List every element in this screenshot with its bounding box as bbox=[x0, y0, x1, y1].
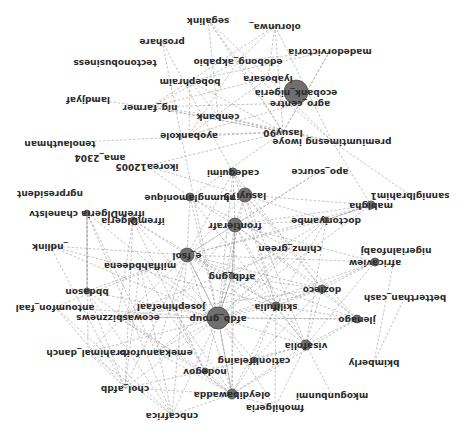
node-label: oleydibawadda bbox=[194, 390, 271, 400]
node-label: edobong_akpabio bbox=[194, 57, 283, 67]
node-label: bobephraim bbox=[160, 77, 221, 87]
edge bbox=[187, 197, 190, 255]
node-label: ama_2304 bbox=[74, 153, 125, 163]
node-label: segalink bbox=[186, 16, 230, 26]
edge bbox=[254, 306, 276, 360]
node-label: bkimberly bbox=[348, 358, 399, 368]
node-label: ecobank_nigeria bbox=[255, 88, 338, 98]
node-label: ngrpresident bbox=[16, 189, 83, 199]
node-label: cationlifelaing bbox=[218, 356, 291, 366]
node-label: proshare bbox=[139, 37, 184, 47]
edge bbox=[306, 289, 322, 345]
node-label: mabigha bbox=[349, 201, 393, 211]
node-label: dozieco bbox=[303, 285, 342, 295]
node-label: premiumtimesng iwoye bbox=[273, 137, 392, 147]
node-label: nlumnglamonique bbox=[144, 193, 235, 203]
edge bbox=[306, 220, 326, 345]
node-label: sanniglbrahim1 bbox=[371, 191, 450, 201]
node-label: antoumfon_faal bbox=[16, 303, 95, 313]
node-label: e_fsol bbox=[172, 251, 201, 261]
node-label: ayobankole bbox=[160, 131, 218, 141]
edge bbox=[190, 132, 283, 197]
node-label: lamdjyaf bbox=[66, 95, 110, 105]
label-layer: ecobank_nigeriaolorunwa_segalinkproshare… bbox=[16, 16, 450, 421]
node-label: ecowasbizznews bbox=[76, 313, 160, 323]
edge bbox=[87, 213, 156, 352]
node-label: afdb_gng bbox=[209, 272, 256, 282]
node-label: apo_source bbox=[291, 167, 348, 177]
node-label: frontierafr bbox=[208, 221, 262, 231]
node-label: ikorea12005 bbox=[116, 162, 179, 172]
edge bbox=[374, 297, 405, 362]
node-label: olorunwa_ bbox=[249, 22, 301, 32]
node-label: tectonobusiness bbox=[73, 58, 156, 68]
node-label: tenolauthman bbox=[24, 139, 95, 149]
edge bbox=[87, 255, 187, 291]
node-label: africaview bbox=[349, 258, 401, 268]
node-label: betterthan_cash bbox=[364, 293, 447, 303]
node-label: iyabosara bbox=[243, 74, 293, 84]
node-label: doctoriyambe bbox=[291, 216, 361, 226]
edge bbox=[171, 225, 235, 306]
node-label: nigerialnfoabj bbox=[361, 246, 432, 256]
edge bbox=[232, 345, 306, 394]
node-label: ifremDlgeria bbox=[101, 216, 165, 226]
node-label: milflahbdeena bbox=[104, 261, 176, 271]
node-label: chol_afdb bbox=[100, 384, 149, 394]
node-label: cadequimi bbox=[207, 168, 259, 178]
edge bbox=[88, 352, 172, 415]
edge bbox=[189, 81, 190, 135]
node-label: fmohilgeria bbox=[246, 403, 304, 413]
edge bbox=[268, 26, 275, 78]
node-label: nig_farmer bbox=[122, 103, 177, 113]
node-label: nodegov bbox=[183, 367, 227, 377]
node-label: _ndlink bbox=[31, 242, 68, 252]
edge bbox=[276, 262, 375, 306]
node-label: madedorvictoria bbox=[288, 47, 371, 57]
edge bbox=[235, 225, 306, 345]
node-label: agro_centre bbox=[270, 99, 330, 109]
node-label: visafolia bbox=[285, 341, 328, 351]
node-label: skillfulia bbox=[254, 302, 297, 312]
edge bbox=[125, 220, 133, 388]
network-graph: ecobank_nigeriaolorunwa_segalinkproshare… bbox=[0, 0, 464, 444]
node-label: cenbank bbox=[196, 112, 240, 122]
node-label: bbdason bbox=[65, 287, 108, 297]
node-label: josephinefaal bbox=[137, 302, 206, 312]
node-label: afdb_group bbox=[189, 314, 247, 324]
edge bbox=[306, 345, 332, 395]
node-label: ibrahimal_danch bbox=[46, 348, 129, 358]
node-label: cnbcafrica bbox=[146, 411, 198, 421]
node-label: lasuy90 bbox=[263, 128, 302, 138]
node-label: jlenago bbox=[338, 315, 376, 325]
node-label: mkogunbunmi bbox=[296, 391, 368, 401]
node-label: chimz_green bbox=[258, 244, 321, 254]
edge bbox=[50, 246, 187, 255]
edge bbox=[190, 26, 275, 81]
edge bbox=[187, 255, 306, 345]
